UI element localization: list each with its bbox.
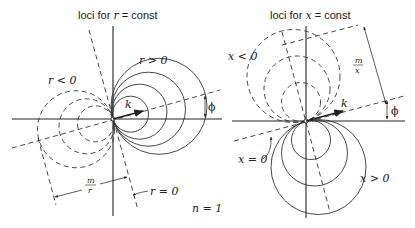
left-panel: k ϕ m r r = 0 loci for r = const r > 0 r… bbox=[12, 9, 222, 216]
r-negative-label: r < 0 bbox=[48, 74, 76, 87]
right-panel-title: loci for x = const bbox=[270, 9, 351, 22]
right-panel: k m x ϕ x = 0 loci for x = const x < 0 x… bbox=[228, 9, 405, 218]
m-over-x-distance-arrow bbox=[364, 27, 386, 104]
k-vector-label: k bbox=[125, 98, 132, 111]
m-over-x-denominator: x bbox=[355, 66, 360, 75]
r-positive-label: r > 0 bbox=[139, 54, 167, 67]
k-vector-label: k bbox=[341, 97, 348, 110]
x-positive-label: x > 0 bbox=[360, 172, 389, 185]
x-positive-circles bbox=[271, 120, 366, 215]
r-zero-label: r = 0 bbox=[150, 185, 178, 198]
diagram-canvas: k ϕ m r r = 0 loci for r = const r > 0 r… bbox=[0, 0, 415, 228]
m-over-r-distance-arrow-left bbox=[55, 190, 82, 197]
x-zero-line bbox=[234, 96, 404, 141]
x-negative-label: x < 0 bbox=[228, 50, 257, 63]
m-over-r-denominator: r bbox=[88, 186, 93, 195]
phi-angle-label: ϕ bbox=[208, 101, 216, 114]
m-over-r-numerator: m bbox=[87, 176, 95, 185]
r-negative-circles bbox=[38, 91, 115, 168]
left-panel-title: loci for r = const bbox=[78, 9, 158, 22]
n-parameter-label: n = 1 bbox=[192, 202, 222, 215]
offset-line bbox=[282, 25, 358, 45]
m-over-x-numerator: m bbox=[355, 56, 363, 65]
offset-line bbox=[38, 138, 56, 205]
x-zero-label: x = 0 bbox=[238, 153, 267, 166]
r-zero-pointer bbox=[133, 191, 148, 195]
phi-angle-label: ϕ bbox=[391, 105, 399, 118]
k-vector-arrow bbox=[113, 111, 143, 119]
